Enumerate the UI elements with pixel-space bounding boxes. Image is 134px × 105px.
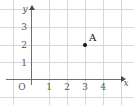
x-tick-label-2: 2	[61, 82, 73, 92]
y-tick-label-2: 2	[18, 40, 30, 50]
y-tick-label-1: 1	[18, 58, 30, 68]
y-axis-label: y	[20, 4, 30, 14]
x-tick-label-4: 4	[97, 82, 109, 92]
y-axis-line	[31, 9, 32, 85]
x-axis-line	[6, 79, 122, 80]
grid-line-vertical	[13, 0, 14, 105]
x-axis-label: x	[121, 78, 131, 88]
x-tick-label-1: 1	[43, 82, 55, 92]
x-tick-label-3: 3	[79, 82, 91, 92]
data-point-a	[83, 43, 87, 47]
grid-line-horizontal	[0, 97, 134, 98]
coordinate-plane-figure: y x O 3 2 1 1 2 3 4 A	[0, 0, 134, 105]
y-tick-label-3: 3	[18, 22, 30, 32]
grid-line-vertical	[121, 0, 122, 105]
data-point-a-label: A	[89, 32, 96, 43]
origin-label: O	[16, 82, 28, 92]
